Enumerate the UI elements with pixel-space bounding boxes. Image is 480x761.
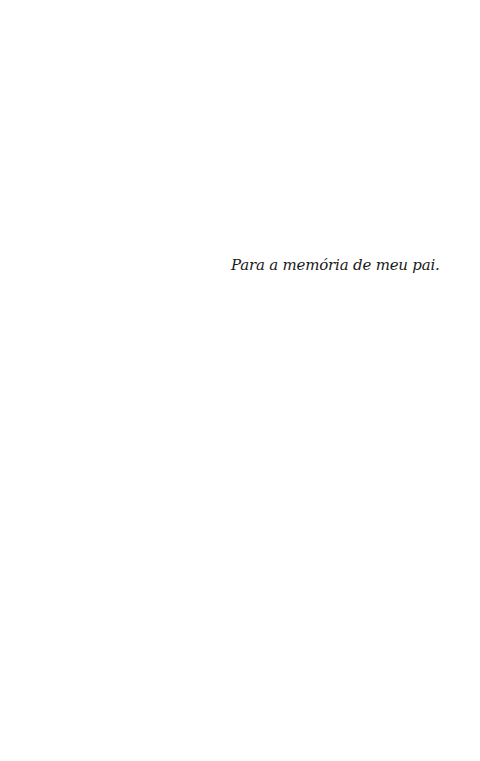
- dedication-text: Para a memória de meu pai.: [231, 255, 440, 275]
- book-page: Para a memória de meu pai.: [0, 0, 480, 761]
